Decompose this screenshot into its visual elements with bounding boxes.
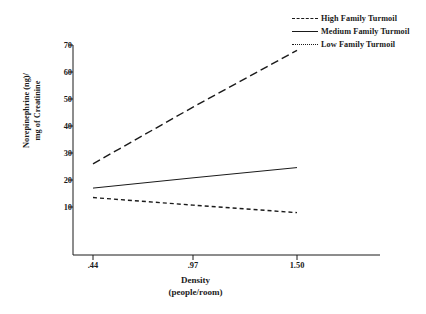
legend-label-high: High Family Turmoil (321, 13, 397, 24)
y-tick-70: 70 (50, 41, 72, 50)
chart-figure: High Family Turmoil Medium Family Turmoi… (0, 0, 426, 314)
series-line-dotted (93, 198, 297, 213)
legend-item-high: High Family Turmoil (292, 12, 424, 25)
y-tick-40: 40 (50, 122, 72, 131)
legend-label-medium: Medium Family Turmoil (321, 26, 410, 37)
legend-line-dotted-icon (292, 39, 318, 50)
chart-legend: High Family Turmoil Medium Family Turmoi… (292, 12, 424, 51)
legend-line-solid-icon (292, 26, 318, 37)
x-axis-title: Density (people/room) (93, 274, 298, 298)
legend-line-dashed-icon (292, 13, 318, 24)
axis-lines (73, 45, 380, 255)
y-tick-30: 30 (50, 149, 72, 158)
y-tick-60: 60 (50, 68, 72, 77)
legend-item-medium: Medium Family Turmoil (292, 25, 424, 38)
x-axis-title-line1: Density (93, 274, 298, 286)
y-axis-title-line2: mg of Creatinine (32, 36, 43, 186)
legend-label-low: Low Family Turmoil (321, 39, 395, 50)
series-line-solid (93, 168, 297, 189)
x-axis-title-line2: (people/room) (93, 286, 298, 298)
x-tick-097: .97 (173, 261, 213, 270)
x-tick-150: 1.50 (277, 261, 317, 270)
y-tick-20: 20 (50, 176, 72, 185)
series-line-dashed (93, 50, 297, 163)
axis-ticks (69, 45, 297, 260)
y-axis-title: Norepinephrine (ng)/ mg of Creatinine (22, 36, 43, 186)
y-tick-50: 50 (50, 95, 72, 104)
y-tick-labels: 70 60 50 40 30 20 10 (50, 0, 72, 314)
data-series-layer (93, 50, 297, 212)
x-tick-044: .44 (73, 261, 113, 270)
y-tick-10: 10 (50, 203, 72, 212)
y-axis-title-line1: Norepinephrine (ng)/ (22, 36, 33, 186)
legend-item-low: Low Family Turmoil (292, 38, 424, 51)
